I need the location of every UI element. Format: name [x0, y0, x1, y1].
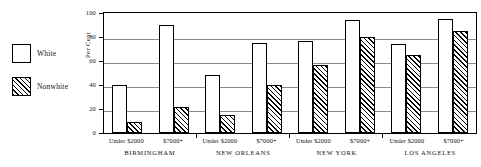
bar-group-birmingham — [104, 13, 197, 133]
bar-pair — [197, 13, 244, 133]
bar-pair — [244, 13, 291, 133]
y-axis-ticks: 100806040200 — [0, 12, 103, 134]
bar-white[interactable] — [391, 44, 406, 133]
x-axis-bin-label: Under $2000 — [197, 137, 244, 144]
plot-area — [103, 12, 477, 134]
bar-series-container — [104, 13, 476, 133]
bar-nonwhite[interactable] — [174, 107, 189, 133]
y-axis-tick-label: 40 — [89, 81, 96, 88]
x-axis-group: Under $2000$7000+NEW YORK — [290, 137, 384, 156]
bar-pair — [430, 13, 477, 133]
bar-pair — [290, 13, 337, 133]
bar-pair — [104, 13, 151, 133]
x-axis-city-label: NEW YORK — [290, 149, 384, 156]
bar-pair — [337, 13, 384, 133]
bar-nonwhite[interactable] — [360, 37, 375, 133]
x-axis-city-label: LOS ANGELES — [384, 149, 478, 156]
x-axis-group: Under $2000$7000+BIRMINGHAM — [103, 137, 197, 156]
bar-pair — [383, 13, 430, 133]
x-axis-group: Under $2000$7000+LOS ANGELES — [384, 137, 478, 156]
bar-white[interactable] — [205, 75, 220, 133]
x-axis-bin-label: Under $2000 — [290, 137, 337, 144]
bar-nonwhite[interactable] — [220, 115, 235, 133]
y-axis-tick-label: 20 — [89, 105, 96, 112]
x-axis-group: Under $2000$7000+NEW ORLEANS — [197, 137, 291, 156]
bar-nonwhite[interactable] — [267, 85, 282, 133]
bar-group-new-york — [290, 13, 383, 133]
x-axis-bin-label: $7000+ — [243, 137, 290, 144]
bar-nonwhite[interactable] — [406, 55, 421, 133]
x-axis-bin-label: $7000+ — [430, 137, 477, 144]
x-axis-bin-label: Under $2000 — [384, 137, 431, 144]
y-axis-tick-label: 100 — [86, 9, 96, 16]
bar-white[interactable] — [438, 19, 453, 133]
bar-white[interactable] — [112, 85, 127, 133]
x-axis-labels: Under $2000$7000+BIRMINGHAMUnder $2000$7… — [103, 137, 477, 156]
bar-white[interactable] — [159, 25, 174, 133]
bar-group-los-angeles — [383, 13, 476, 133]
bar-white[interactable] — [345, 20, 360, 133]
bar-nonwhite[interactable] — [313, 65, 328, 133]
bar-white[interactable] — [252, 43, 267, 133]
x-axis-city-label: BIRMINGHAM — [103, 149, 197, 156]
x-axis-bin-label: $7000+ — [150, 137, 197, 144]
x-axis-bin-label: Under $2000 — [103, 137, 150, 144]
y-axis-tick-label: 80 — [89, 33, 96, 40]
bar-pair — [151, 13, 198, 133]
y-axis-tick-label: 60 — [89, 57, 96, 64]
x-axis-bin-label: $7000+ — [337, 137, 384, 144]
bar-white[interactable] — [298, 41, 313, 133]
x-axis-city-label: NEW ORLEANS — [197, 149, 291, 156]
y-axis-tick-label: 0 — [93, 129, 96, 136]
bar-group-new-orleans — [197, 13, 290, 133]
bar-nonwhite[interactable] — [453, 31, 468, 133]
bar-nonwhite[interactable] — [127, 122, 142, 133]
